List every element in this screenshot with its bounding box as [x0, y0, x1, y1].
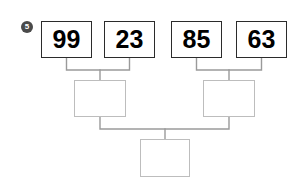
tree-node-leaf-4[interactable]: 63 — [236, 21, 287, 58]
tree-node-value: 99 — [53, 27, 81, 52]
tree-node-value: 85 — [183, 27, 211, 52]
connector-leaf1-leaf2 — [67, 58, 130, 70]
connector-leaf3-leaf4 — [197, 58, 262, 70]
tree-node-mid-left[interactable] — [74, 80, 126, 117]
worksheet-canvas: 5 99 23 85 63 — [0, 0, 301, 188]
connector-mid-left-mid-right — [100, 117, 229, 129]
tree-node-leaf-2[interactable]: 23 — [104, 21, 155, 58]
tree-node-mid-right[interactable] — [203, 80, 255, 117]
tree-node-root[interactable] — [140, 139, 190, 177]
tree-node-value: 23 — [116, 27, 144, 52]
tree-node-leaf-3[interactable]: 85 — [171, 21, 222, 58]
tree-node-value: 63 — [248, 27, 276, 52]
tree-node-leaf-1[interactable]: 99 — [41, 21, 92, 58]
